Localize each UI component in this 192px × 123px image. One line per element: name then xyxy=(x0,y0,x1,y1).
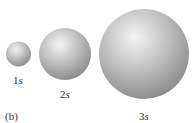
figure-label: (b) xyxy=(5,111,18,122)
orbital-2s-label: 2s xyxy=(60,89,70,100)
orbital-1s-label: 1s xyxy=(13,75,23,86)
orbital-3s-sphere xyxy=(99,9,189,99)
orbital-diagram xyxy=(0,0,192,123)
orbital-3s-label: 3s xyxy=(139,111,149,122)
orbital-1s-sphere xyxy=(6,42,31,67)
orbital-2s-sphere xyxy=(39,28,91,80)
